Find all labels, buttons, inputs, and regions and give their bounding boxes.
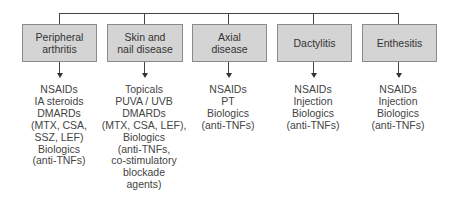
treatment-list-skin-nail-disease: Topicals PUVA / UVB DMARDs (MTX, CSA, LE…	[99, 84, 189, 191]
treatment-item: (anti-TNFs)	[183, 120, 273, 132]
arrow-down-icon	[396, 73, 402, 78]
category-label: arthritis	[36, 43, 84, 56]
connector-down-1	[59, 13, 60, 24]
treatment-item: agents)	[99, 179, 189, 191]
treatment-item: Biologics	[99, 132, 189, 144]
treatment-item: SSZ, LEF)	[14, 132, 104, 144]
category-label: Axial	[211, 31, 247, 44]
connector-down-2	[144, 13, 145, 24]
category-label: Dactylitis	[293, 37, 335, 50]
treatment-list-enthesitis: NSAIDs Injection Biologics (anti-TNFs)	[353, 84, 443, 132]
treatment-item: Biologics	[353, 108, 443, 120]
treatment-list-dactylitis: NSAIDs Injection Biologics (anti-TNFs)	[268, 84, 358, 132]
category-label: Enthesitis	[377, 37, 423, 50]
category-label: nail disease	[117, 43, 172, 56]
connector-down-4	[313, 13, 314, 24]
category-box-axial-disease: Axialdisease	[192, 24, 267, 62]
category-box-skin-nail-disease: Skin andnail disease	[107, 24, 183, 62]
category-box-dactylitis: Dactylitis	[277, 24, 352, 62]
treatment-item: (MTX, CSA,	[14, 120, 104, 132]
connector-down-5	[398, 13, 399, 24]
arrow-down-icon	[142, 73, 148, 78]
treatment-item: Biologics	[183, 108, 273, 120]
arrow-down-icon	[311, 73, 317, 78]
treatment-item: (anti-TNFs)	[353, 120, 443, 132]
treatment-list-axial-disease: NSAIDs PT Biologics (anti-TNFs)	[183, 84, 273, 132]
category-box-enthesitis: Enthesitis	[362, 24, 437, 62]
category-label: Skin and	[117, 31, 172, 44]
category-label: Peripheral	[36, 31, 84, 44]
treatment-item: DMARDs	[99, 108, 189, 120]
treatment-list-peripheral-arthritis: NSAIDs IA steroids DMARDs (MTX, CSA, SSZ…	[14, 84, 104, 167]
category-box-peripheral-arthritis: Peripheralarthritis	[22, 24, 97, 62]
treatment-item: DMARDs	[14, 108, 104, 120]
connector-down-3	[228, 13, 229, 24]
arrow-down-icon	[57, 73, 63, 78]
category-label: disease	[211, 43, 247, 56]
top-connector-line	[59, 13, 399, 14]
treatment-item: (MTX, CSA, LEF),	[99, 120, 189, 132]
arrow-down-icon	[226, 73, 232, 78]
treatment-item: (anti-TNFs)	[268, 120, 358, 132]
treatment-item: Biologics	[268, 108, 358, 120]
treatment-item: (anti-TNFs)	[14, 155, 104, 167]
